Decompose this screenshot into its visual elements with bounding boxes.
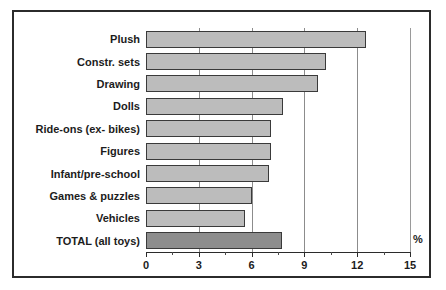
bar-row: Drawing (146, 73, 410, 95)
bar[interactable] (146, 120, 271, 137)
bar[interactable] (146, 165, 269, 182)
x-axis-tick-label: 15 (404, 260, 416, 271)
bar-row: Vehicles (146, 207, 410, 229)
bar[interactable] (146, 98, 283, 115)
category-label: TOTAL (all toys) (56, 235, 140, 246)
bar[interactable] (146, 232, 282, 249)
bar-row: Constr. sets (146, 50, 410, 72)
category-label: Dolls (113, 101, 140, 112)
x-axis-minor-tick (278, 252, 279, 255)
bar-row: Games & puzzles (146, 185, 410, 207)
x-axis-tick (357, 252, 358, 257)
x-axis-tick-label: 12 (351, 260, 363, 271)
x-axis-minor-tick (225, 252, 226, 255)
x-axis-tick (146, 252, 147, 257)
x-axis-tick-label: 9 (301, 260, 307, 271)
bar-row: Figures (146, 140, 410, 162)
bar[interactable] (146, 53, 326, 70)
x-axis-tick (199, 252, 200, 257)
category-label: Figures (100, 146, 140, 157)
category-label: Drawing (97, 78, 140, 89)
x-axis-minor-tick (331, 252, 332, 255)
bar[interactable] (146, 210, 245, 227)
category-label: Games & puzzles (50, 190, 140, 201)
x-axis-tick-label: 3 (196, 260, 202, 271)
x-axis-tick (304, 252, 305, 257)
x-axis-tick-label: 0 (143, 260, 149, 271)
x-axis-unit-label: % (413, 234, 423, 245)
bar-row: TOTAL (all toys) (146, 230, 410, 252)
x-axis-minor-tick (384, 252, 385, 255)
category-label: Ride-ons (ex- bikes) (35, 123, 140, 134)
category-label: Vehicles (96, 213, 140, 224)
category-label: Infant/pre-school (51, 168, 140, 179)
bar-row: Ride-ons (ex- bikes) (146, 118, 410, 140)
x-axis-minor-tick (172, 252, 173, 255)
category-label: Constr. sets (77, 56, 140, 67)
x-axis-tick-label: 6 (249, 260, 255, 271)
x-axis-tick (252, 252, 253, 257)
bar-row: Infant/pre-school (146, 162, 410, 184)
bar[interactable] (146, 31, 366, 48)
bar-row: Dolls (146, 95, 410, 117)
plot-right-edge (410, 28, 411, 252)
bar[interactable] (146, 75, 318, 92)
bar[interactable] (146, 187, 252, 204)
x-axis-tick (410, 252, 411, 257)
bar-row: Plush (146, 28, 410, 50)
chart-frame: PlushConstr. setsDrawingDollsRide-ons (e… (12, 10, 431, 278)
plot-area: PlushConstr. setsDrawingDollsRide-ons (e… (146, 28, 410, 252)
category-label: Plush (110, 34, 140, 45)
bar[interactable] (146, 143, 271, 160)
